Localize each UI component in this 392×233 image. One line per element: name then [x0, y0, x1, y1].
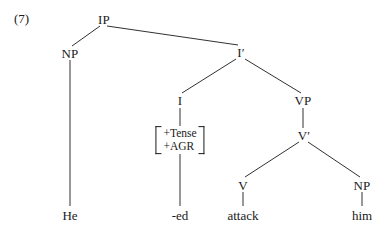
terminal-inflection: -ed [172, 209, 189, 222]
right-square-bracket [199, 126, 205, 154]
terminal-object: him [352, 209, 372, 222]
terminal-subject: He [62, 209, 77, 222]
left-square-bracket [155, 126, 161, 154]
node-np-object: NP [353, 179, 370, 192]
syntax-tree-figure: (7) IP NP I′ I VP V′ V NP +Tense +AGR [0, 0, 392, 233]
feature-matrix: +Tense +AGR [155, 126, 204, 154]
branch-vbar-to-np [308, 142, 360, 177]
node-np-subject: NP [61, 47, 78, 60]
branch-ip-to-ibar [107, 26, 238, 45]
node-v-bar: V′ [298, 129, 311, 142]
node-v-head: V [238, 179, 248, 192]
branch-vbar-to-v [245, 142, 299, 177]
node-vp: VP [294, 94, 311, 107]
branch-ibar-to-vp [245, 59, 301, 93]
branch-ibar-to-i [182, 59, 236, 93]
tree-branch-lines [0, 0, 392, 233]
terminal-verb: attack [227, 209, 258, 222]
branch-ip-to-np [72, 26, 100, 46]
feature-agr: +AGR [163, 140, 196, 153]
feature-tense: +Tense [163, 127, 196, 140]
node-ip: IP [98, 13, 110, 26]
node-i-bar: I′ [237, 46, 245, 59]
feature-list: +Tense +AGR [163, 126, 196, 154]
node-i-head: I [178, 94, 183, 107]
